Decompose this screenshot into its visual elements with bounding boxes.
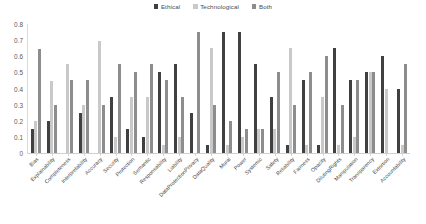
bar-both bbox=[213, 105, 216, 153]
bar-ethical bbox=[222, 32, 225, 153]
bar-group bbox=[92, 24, 108, 153]
x-tick: Systemic bbox=[251, 154, 267, 224]
bar-both bbox=[356, 80, 359, 153]
y-tick-label: 0.5 bbox=[14, 69, 23, 76]
bar-groups bbox=[28, 24, 410, 153]
bar-group bbox=[76, 24, 92, 153]
bar-both bbox=[197, 32, 200, 153]
bar-group bbox=[394, 24, 410, 153]
bar-both bbox=[229, 121, 232, 153]
bar-technological bbox=[162, 145, 165, 153]
y-tick-label: 0 bbox=[19, 150, 23, 157]
y-tick-label: 0.7 bbox=[14, 37, 23, 44]
bar-technological bbox=[98, 41, 101, 153]
bar-ethical bbox=[286, 145, 289, 153]
bar-group bbox=[139, 24, 155, 153]
bar-technological bbox=[385, 89, 388, 154]
bar-both bbox=[70, 80, 73, 153]
x-tick-label: Moral bbox=[217, 156, 231, 170]
x-tick: Liability bbox=[171, 154, 187, 224]
legend-item-both: Both bbox=[252, 3, 272, 10]
x-tick: DilutingRights bbox=[331, 154, 347, 224]
bar-group bbox=[283, 24, 299, 153]
bar-technological bbox=[289, 48, 292, 153]
bar-technological bbox=[241, 137, 244, 153]
x-tick: Safety bbox=[267, 154, 283, 224]
bar-ethical bbox=[381, 56, 384, 153]
bar-both bbox=[325, 56, 328, 153]
bar-group bbox=[378, 24, 394, 153]
bar-group bbox=[267, 24, 283, 153]
legend-label-both: Both bbox=[259, 3, 272, 10]
bar-both bbox=[134, 72, 137, 153]
plot-area bbox=[28, 24, 410, 153]
bar-technological bbox=[50, 81, 53, 153]
bar-ethical bbox=[79, 113, 82, 153]
bar-ethical bbox=[254, 64, 257, 153]
bar-both bbox=[245, 129, 248, 153]
bar-ethical bbox=[206, 145, 209, 153]
bar-both bbox=[118, 64, 121, 153]
legend-swatch-ethical bbox=[154, 4, 159, 9]
bar-both bbox=[38, 49, 41, 153]
bar-ethical bbox=[158, 72, 161, 153]
bar-both bbox=[181, 97, 184, 153]
bar-chart: Ethical Technological Both 0.80.70.60.50… bbox=[0, 0, 426, 224]
bar-ethical bbox=[270, 97, 273, 153]
bar-technological bbox=[226, 145, 229, 153]
bar-ethical bbox=[365, 72, 368, 153]
bar-technological bbox=[321, 97, 324, 153]
bar-technological bbox=[178, 137, 181, 153]
bar-both bbox=[102, 105, 105, 153]
bar-both bbox=[277, 72, 280, 153]
x-tick-label: Bias bbox=[29, 156, 41, 168]
bar-technological bbox=[401, 145, 404, 153]
bar-group bbox=[219, 24, 235, 153]
y-tick-label: 0.4 bbox=[14, 85, 23, 92]
bar-group bbox=[362, 24, 378, 153]
bar-group bbox=[299, 24, 315, 153]
bar-technological bbox=[66, 64, 69, 153]
bar-technological bbox=[114, 137, 117, 153]
x-tick: Moral bbox=[219, 154, 235, 224]
bar-both bbox=[309, 72, 312, 153]
bar-group bbox=[235, 24, 251, 153]
bar-group bbox=[28, 24, 44, 153]
bar-both bbox=[293, 105, 296, 153]
bar-ethical bbox=[238, 32, 241, 153]
bar-group bbox=[331, 24, 347, 153]
bar-technological bbox=[273, 129, 276, 153]
bar-both bbox=[341, 105, 344, 153]
bar-group bbox=[108, 24, 124, 153]
bar-ethical bbox=[126, 129, 129, 153]
bar-both bbox=[261, 129, 264, 153]
y-tick-label: 0.2 bbox=[14, 117, 23, 124]
y-tick-label: 0.3 bbox=[14, 101, 23, 108]
chart-legend: Ethical Technological Both bbox=[0, 3, 426, 10]
bar-ethical bbox=[333, 48, 336, 153]
bar-both bbox=[150, 64, 153, 153]
y-axis: 0.80.70.60.50.40.30.20.10 bbox=[0, 24, 26, 153]
bar-ethical bbox=[317, 145, 320, 153]
bar-group bbox=[155, 24, 171, 153]
bar-group bbox=[171, 24, 187, 153]
bar-both bbox=[372, 72, 375, 153]
x-tick: DataQuality bbox=[203, 154, 219, 224]
bar-technological bbox=[369, 72, 372, 153]
bar-ethical bbox=[142, 137, 145, 153]
y-tick-label: 0.1 bbox=[14, 133, 23, 140]
bar-both bbox=[404, 64, 407, 153]
bar-ethical bbox=[110, 97, 113, 153]
bar-group bbox=[187, 24, 203, 153]
legend-label-technological: Technological bbox=[200, 3, 239, 10]
bar-group bbox=[251, 24, 267, 153]
bar-ethical bbox=[31, 129, 34, 153]
bar-group bbox=[44, 24, 60, 153]
bar-ethical bbox=[190, 113, 193, 153]
bar-technological bbox=[257, 129, 260, 153]
bar-group bbox=[346, 24, 362, 153]
legend-swatch-technological bbox=[193, 4, 198, 9]
x-tick: Accountability bbox=[394, 154, 410, 224]
bar-group bbox=[124, 24, 140, 153]
bar-technological bbox=[130, 97, 133, 153]
